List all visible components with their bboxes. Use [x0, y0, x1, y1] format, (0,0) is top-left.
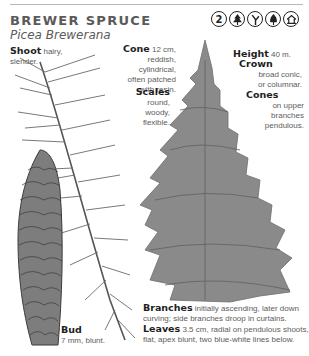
cone-illustration	[18, 150, 62, 345]
crown-label: Crown broad conic, or columnar.	[230, 59, 302, 90]
leaves-label: Leaves 3.5 cm, radial on pendulous shoot…	[143, 324, 309, 345]
shoot-label: Shoot hairy, slender.	[10, 46, 62, 67]
bud-label: Bud 7 mm, blunt.	[61, 325, 105, 346]
cones-label: Cones on upper branches pendulous.	[246, 90, 304, 131]
branches-label: Branches initially ascending, later down…	[143, 303, 299, 324]
scales-label: Scales round, woody, flexible.	[110, 87, 170, 128]
